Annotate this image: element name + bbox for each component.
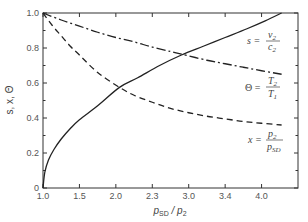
svg-text:c2: c2 — [268, 41, 276, 54]
svg-text:T1: T1 — [268, 88, 277, 101]
x-tick-label: 1.5 — [73, 191, 86, 201]
svg-text:s =: s = — [247, 35, 260, 46]
x-tick-label: 3.0 — [182, 191, 195, 201]
svg-text:Θ =: Θ = — [245, 82, 261, 93]
svg-text:T2: T2 — [268, 75, 278, 88]
y-tick-label: 0.2 — [26, 148, 39, 158]
svg-text:x =: x = — [247, 134, 262, 145]
label-theta: Θ = T2 T1 — [245, 75, 280, 101]
y-tick-label: 0.4 — [26, 113, 39, 123]
svg-text:p2: p2 — [267, 128, 277, 141]
series-line-1 — [43, 13, 282, 74]
y-tick-label: 0 — [34, 183, 39, 193]
y-tick-label: 0.6 — [26, 78, 39, 88]
line-chart: 1.01.52.02.33.03.44.0 00.20.40.60.81.0 s… — [0, 0, 308, 222]
x-tick-label: 3.4 — [219, 191, 232, 201]
label-x: x = p2 pSD — [247, 128, 283, 154]
x-axis-title: pSD / p2 — [152, 205, 186, 217]
x-tick-label: 2.0 — [110, 191, 123, 201]
svg-text:pSD: pSD — [266, 141, 281, 154]
series-layer — [43, 13, 282, 188]
y-axis-title: s, x, Θ — [4, 85, 15, 114]
series-line-0 — [43, 13, 282, 188]
y-tick-label: 1.0 — [26, 8, 39, 18]
x-tick-label: 4.0 — [255, 191, 268, 201]
x-axis: 1.01.52.02.33.03.44.0 — [37, 13, 268, 201]
label-s: s = v2 c2 — [247, 29, 280, 54]
y-tick-label: 0.8 — [26, 43, 39, 53]
x-tick-label: 2.3 — [146, 191, 159, 201]
